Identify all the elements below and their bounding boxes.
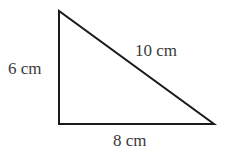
triangle-diagram: 6 cm 10 cm 8 cm xyxy=(0,0,226,157)
base-label: 8 cm xyxy=(113,131,147,150)
hypotenuse-label: 10 cm xyxy=(135,41,177,60)
vertical-side-label: 6 cm xyxy=(8,59,42,78)
right-triangle xyxy=(59,11,214,124)
